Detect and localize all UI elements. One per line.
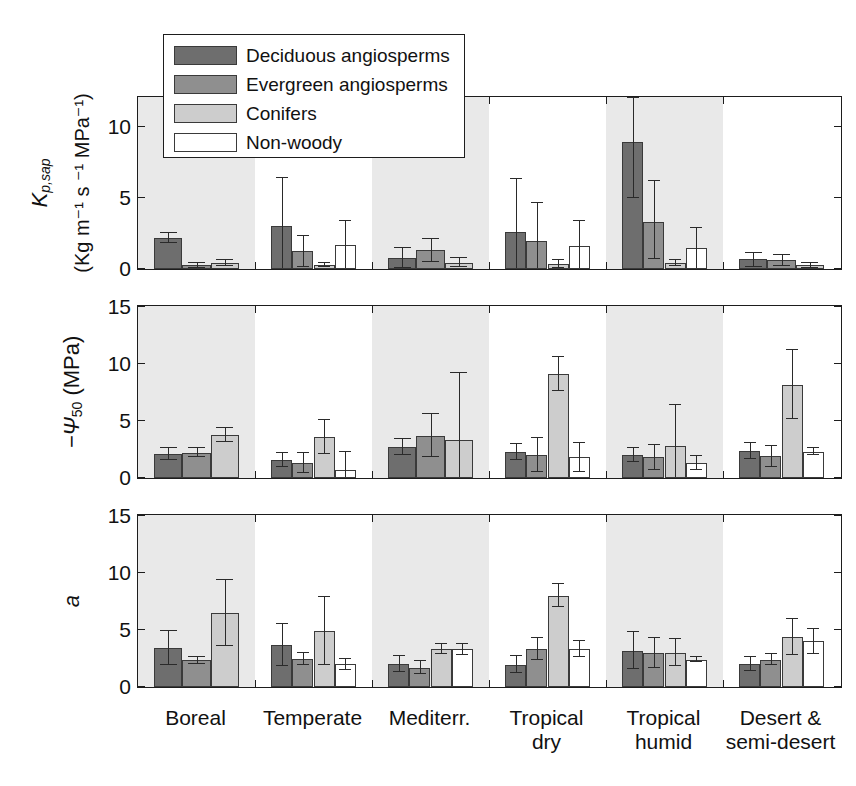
y-axis-tick-label: 5 bbox=[119, 619, 131, 640]
y-axis-tick-label: 10 bbox=[108, 115, 131, 136]
error-bar-cap-lower bbox=[744, 670, 757, 671]
legend-item: Conifers bbox=[174, 100, 456, 127]
error-bar-cap-upper bbox=[648, 444, 661, 445]
error-bar-line bbox=[459, 257, 460, 266]
error-bar-cap-upper bbox=[160, 447, 177, 448]
error-bar-line bbox=[225, 579, 226, 645]
error-bar-cap-upper bbox=[188, 262, 205, 263]
error-bar-line bbox=[197, 447, 198, 456]
y-axis-tick bbox=[138, 477, 145, 478]
error-bar-line bbox=[558, 259, 559, 266]
error-bar-cap-lower bbox=[786, 654, 799, 655]
error-bar-cap-lower bbox=[773, 265, 790, 266]
error-bar-line bbox=[579, 442, 580, 472]
legend-swatch-dark-gray bbox=[174, 46, 237, 65]
error-bar-cap-upper bbox=[801, 262, 818, 263]
error-bar-cap-upper bbox=[744, 656, 757, 657]
x-label-line-1: Tropical bbox=[488, 706, 605, 730]
y-axis-tick-right bbox=[834, 197, 841, 198]
error-bar-line bbox=[792, 349, 793, 417]
bar bbox=[548, 596, 569, 687]
bar bbox=[686, 660, 707, 687]
error-bar-line bbox=[771, 445, 772, 466]
panel-a bbox=[137, 514, 842, 688]
x-axis-tick-top bbox=[606, 97, 607, 104]
error-bar-cap-upper bbox=[188, 656, 205, 657]
x-axis-category-label: Temperate bbox=[254, 706, 371, 730]
error-bar-cap-upper bbox=[690, 455, 703, 456]
error-bar-cap-lower bbox=[216, 441, 233, 442]
error-bar-line bbox=[675, 404, 676, 477]
error-bar-cap-lower bbox=[627, 461, 640, 462]
error-bar-cap-upper bbox=[188, 447, 205, 448]
error-bar-line bbox=[813, 628, 814, 653]
x-axis-tick-bottom bbox=[723, 680, 724, 687]
error-bar-cap-lower bbox=[801, 267, 818, 268]
x-axis-tick-bottom bbox=[255, 680, 256, 687]
error-bar-cap-lower bbox=[188, 663, 205, 664]
error-bar-cap-lower bbox=[552, 606, 565, 607]
error-bar-cap-upper bbox=[160, 232, 177, 233]
error-bar-cap-lower bbox=[765, 664, 778, 665]
error-bar-cap-lower bbox=[648, 667, 661, 668]
error-bar-line bbox=[441, 643, 442, 653]
y-axis-tick-label: 10 bbox=[108, 353, 131, 374]
x-axis-tick-top bbox=[489, 306, 490, 313]
error-bar-cap-lower bbox=[669, 665, 682, 666]
x-axis-tick-bottom bbox=[723, 262, 724, 269]
error-bar-line bbox=[675, 638, 676, 665]
y-axis-tick-right bbox=[834, 268, 841, 269]
error-bar-cap-lower bbox=[393, 671, 406, 672]
legend-label: Non-woody bbox=[246, 133, 342, 152]
error-bar-cap-upper bbox=[807, 628, 820, 629]
x-axis-tick-top bbox=[723, 306, 724, 313]
legend-swatch-light-gray bbox=[174, 104, 237, 123]
error-bar-line bbox=[431, 238, 432, 261]
error-bar-cap-upper bbox=[450, 257, 467, 258]
error-bar-line bbox=[654, 444, 655, 469]
y-axis-tick-label: 0 bbox=[119, 676, 131, 697]
error-bar-cap-lower bbox=[160, 242, 177, 243]
error-bar-cap-lower bbox=[786, 418, 799, 419]
error-bar-line bbox=[750, 656, 751, 670]
error-bar-line bbox=[696, 455, 697, 469]
x-axis-tick-top bbox=[255, 306, 256, 313]
error-bar-cap-lower bbox=[690, 469, 703, 470]
x-axis-tick-bottom bbox=[489, 680, 490, 687]
error-bar-cap-lower bbox=[297, 472, 310, 473]
x-axis-tick-top bbox=[723, 515, 724, 522]
x-axis-tick-bottom bbox=[372, 471, 373, 478]
y-axis-tick bbox=[138, 686, 145, 687]
error-bar-cap-lower bbox=[414, 673, 427, 674]
y-axis-tick-right bbox=[834, 477, 841, 478]
error-bar-cap-upper bbox=[531, 437, 544, 438]
error-bar-line bbox=[282, 452, 283, 466]
error-bar-cap-upper bbox=[690, 227, 703, 228]
legend: Deciduous angiospermsEvergreen angiosper… bbox=[163, 34, 465, 158]
x-axis-tick-top bbox=[606, 306, 607, 313]
error-bar-cap-upper bbox=[318, 262, 331, 263]
y-axis-tick-label: 5 bbox=[119, 186, 131, 207]
error-bar-cap-upper bbox=[216, 259, 233, 260]
legend-item: Deciduous angiosperms bbox=[174, 42, 456, 69]
error-bar-line bbox=[558, 583, 559, 606]
legend-label: Evergreen angiosperms bbox=[246, 75, 448, 94]
error-bar-line bbox=[324, 596, 325, 664]
error-bar-cap-upper bbox=[573, 220, 586, 221]
x-axis-tick-top bbox=[606, 515, 607, 522]
x-axis-tick-top bbox=[723, 97, 724, 104]
error-bar-line bbox=[197, 656, 198, 663]
error-bar-line bbox=[225, 427, 226, 441]
figure-root: Kp,sap −Ψ50 (MPa) a Deciduous angiosperm… bbox=[0, 0, 856, 786]
error-bar-cap-lower bbox=[435, 653, 448, 654]
error-bar-cap-upper bbox=[573, 640, 586, 641]
x-label-line-1: Tropical bbox=[605, 706, 722, 730]
x-axis-tick-bottom bbox=[255, 262, 256, 269]
error-bar-line bbox=[462, 643, 463, 654]
error-bar-cap-lower bbox=[531, 659, 544, 660]
panel-1-y-axis-title: Kp,sap bbox=[27, 159, 54, 208]
error-bar-cap-upper bbox=[216, 579, 233, 580]
error-bar-cap-upper bbox=[552, 583, 565, 584]
bar bbox=[803, 452, 824, 478]
error-bar-cap-upper bbox=[531, 637, 544, 638]
